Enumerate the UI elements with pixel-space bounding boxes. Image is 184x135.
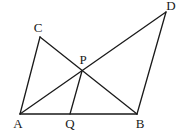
point-label-p: P <box>79 52 86 67</box>
point-label-b: B <box>136 116 145 131</box>
point-label-d: D <box>166 0 175 13</box>
point-label-q: Q <box>65 116 75 131</box>
point-label-c: C <box>34 20 43 35</box>
segment-cb <box>40 37 137 114</box>
segment-db <box>137 12 166 114</box>
point-label-a: A <box>13 116 23 131</box>
geometry-diagram: A Q B C D P <box>0 0 184 135</box>
